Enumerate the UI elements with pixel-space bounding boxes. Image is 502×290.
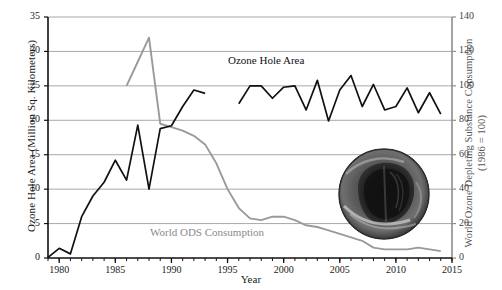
y-axis-left-tick-label: 30	[10, 44, 40, 55]
x-axis-tick-label: 1990	[151, 264, 191, 275]
y-axis-right-tick-label: 40	[459, 182, 489, 193]
y-axis-right-title: World Ozone Depleting Substance Consumpt…	[462, 18, 488, 268]
y-axis-left-tick-label: 35	[10, 10, 40, 21]
x-axis-tick-label: 2010	[376, 264, 416, 275]
x-axis-tick-label: 2005	[320, 264, 360, 275]
y-axis-right-tick-label: 20	[459, 217, 489, 228]
x-axis-tick-label: 2000	[264, 264, 304, 275]
plot-canvas	[0, 0, 502, 290]
y-axis-right-tick-label: 120	[459, 44, 489, 55]
ozone-hole-satellite-image	[338, 148, 430, 240]
y-axis-right-tick-label: 0	[459, 251, 489, 262]
y-axis-left-tick-label: 25	[10, 79, 40, 90]
y-axis-left-tick-label: 0	[10, 251, 40, 262]
y-axis-left-tick-label: 10	[10, 182, 40, 193]
y-axis-left-tick-label: 15	[10, 148, 40, 159]
x-axis-tick-label: 1985	[95, 264, 135, 275]
x-axis-tick-label: 2015	[432, 264, 472, 275]
x-axis-tick-label: 1980	[39, 264, 79, 275]
y-axis-left-tick-label: 5	[10, 217, 40, 228]
x-axis-tick-label: 1995	[208, 264, 248, 275]
y-axis-right-title-sub: (1986 = 100)	[475, 18, 488, 268]
satellite-image-svg	[338, 148, 430, 240]
world-ods-consumption-label: World ODS Consumption	[150, 226, 264, 238]
y-axis-right-tick-label: 60	[459, 148, 489, 159]
y-axis-right-tick-label: 80	[459, 113, 489, 124]
y-axis-left-tick-label: 20	[10, 113, 40, 124]
ozone-hole-area-label: Ozone Hole Area	[228, 54, 304, 66]
ozone-hole-chart-figure: Ozone Hole Area (Million Sq. Kilometers)…	[0, 0, 502, 290]
y-axis-right-tick-label: 140	[459, 10, 489, 21]
y-axis-right-tick-label: 100	[459, 79, 489, 90]
